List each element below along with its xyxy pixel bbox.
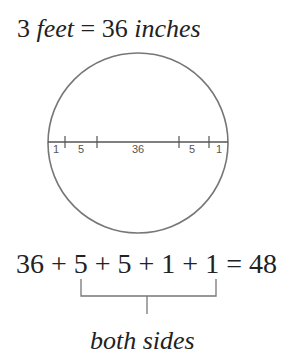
brace-icon [81,279,216,296]
segment-label-5-right: 5 [189,143,195,155]
segment-label-1-right: 1 [216,143,222,155]
segment-label-36: 36 [132,143,144,155]
segment-label-1-left: 1 [53,143,59,155]
segment-label-5-left: 5 [78,143,84,155]
brace-label: both sides [90,326,195,356]
circle-diagram: 1 5 36 5 1 [0,0,299,364]
sum-equation: 36 + 5 + 5 + 1 + 1 = 48 [16,248,277,280]
